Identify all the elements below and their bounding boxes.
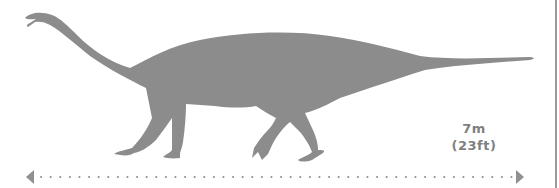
- size-imperial: (23ft): [434, 137, 514, 154]
- dinosaur-size-figure: 7m (23ft): [0, 0, 559, 188]
- arrow-right-icon: [516, 170, 524, 184]
- size-metric: 7m: [434, 120, 514, 137]
- arrow-left-icon: [26, 170, 34, 184]
- size-label: 7m (23ft): [434, 120, 514, 154]
- length-scale-bar: [0, 0, 559, 188]
- right-border-divider: [555, 0, 557, 188]
